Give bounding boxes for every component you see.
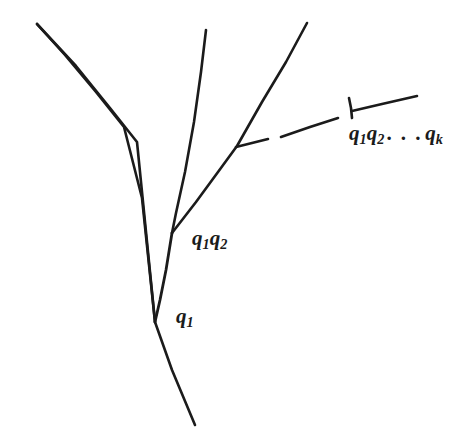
label-q1q2-subscript-2: 2 bbox=[220, 236, 227, 252]
label-q1-subscript: 1 bbox=[187, 314, 194, 330]
label-q1-base: q bbox=[176, 304, 187, 328]
label-qk-subscript-1: 1 bbox=[360, 131, 367, 147]
tree-diagram-canvas bbox=[0, 0, 472, 447]
node-label-q1: q1 bbox=[176, 306, 194, 329]
node-label-q1q2qk: q1q2. . .qk bbox=[349, 123, 443, 146]
label-qk-base-2: q bbox=[367, 121, 378, 145]
label-qk-ellipsis: . . . bbox=[384, 121, 425, 145]
label-qk-base-1: q bbox=[349, 121, 360, 145]
label-q1q2-base-1: q bbox=[192, 226, 203, 250]
label-qk-subscript-k: k bbox=[436, 131, 443, 147]
label-q1q2-subscript-1: 1 bbox=[203, 236, 210, 252]
label-qk-base-k: q bbox=[425, 121, 436, 145]
label-q1q2-base-2: q bbox=[210, 226, 221, 250]
diagram-background bbox=[0, 0, 472, 447]
node-label-q1q2: q1q2 bbox=[192, 228, 227, 251]
